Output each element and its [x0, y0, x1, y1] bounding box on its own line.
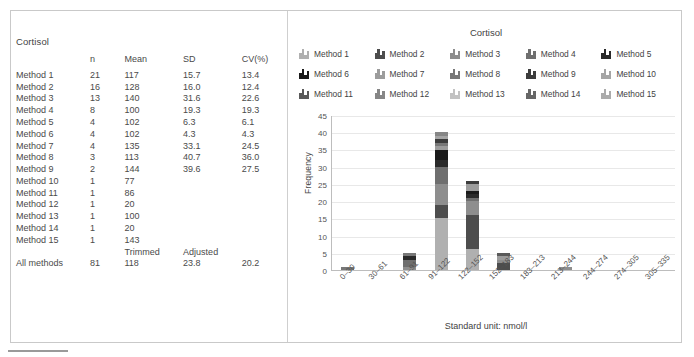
y-tick-label: 30 [305, 163, 327, 172]
value-cv: 24.5 [242, 140, 280, 152]
bar-segment [435, 150, 448, 160]
legend-label: Method 15 [616, 89, 656, 99]
value-n: 3 [90, 151, 124, 163]
table-row: Method 541026.36.1 [16, 116, 280, 128]
legend-item-method-6[interactable]: Method 6 [299, 64, 375, 84]
bar-slot [363, 116, 394, 270]
x-tick-slot: 0–30 [331, 273, 362, 323]
value-cv: 22.6 [242, 93, 280, 105]
value-sd: 16.0 [183, 81, 242, 93]
value-sd [183, 234, 242, 246]
value-sd [183, 199, 242, 211]
legend-item-method-13[interactable]: Method 13 [450, 84, 526, 104]
value-mean: 100 [125, 104, 184, 116]
legend-swatch-icon [299, 49, 309, 59]
y-axis-ticks: 051015202530354045 [305, 116, 327, 271]
value-n: 2 [90, 163, 124, 175]
legend-item-method-4[interactable]: Method 4 [526, 44, 602, 64]
table-subheader-row: TrimmedAdjusted [16, 246, 280, 258]
panel-divider [287, 11, 288, 342]
table-row: Method 9214439.627.5 [16, 163, 280, 175]
table-header-row: n Mean SD CV(%) [16, 54, 280, 69]
legend-item-method-14[interactable]: Method 14 [526, 84, 602, 104]
table-row: Method 131100 [16, 210, 280, 222]
value-n: 1 [90, 199, 124, 211]
value-mean: 135 [125, 140, 184, 152]
subheader-trimmed: Trimmed [125, 246, 184, 258]
x-tick-slot: 152–183 [487, 273, 518, 323]
total-sd: 23.8 [183, 258, 242, 270]
value-cv: 6.1 [242, 116, 280, 128]
subheader-adjusted: Adjusted [183, 246, 242, 258]
value-n: 16 [90, 81, 124, 93]
value-mean: 128 [125, 81, 184, 93]
legend-swatch-icon [450, 69, 460, 79]
legend-item-method-7[interactable]: Method 7 [375, 64, 451, 84]
legend-item-method-5[interactable]: Method 5 [601, 44, 677, 64]
bar-slot [550, 116, 581, 270]
legend-item-method-8[interactable]: Method 8 [450, 64, 526, 84]
plot-canvas [331, 116, 675, 271]
value-mean: 113 [125, 151, 184, 163]
legend-item-method-2[interactable]: Method 2 [375, 44, 451, 64]
figure-page: Cortisol n Mean SD CV(%) Method 12111715… [0, 0, 694, 357]
value-mean: 86 [125, 187, 184, 199]
y-tick-label: 10 [305, 232, 327, 241]
table-row: Method 31314031.622.6 [16, 93, 280, 105]
value-mean: 20 [125, 222, 184, 234]
chart-title: Cortisol [293, 27, 679, 38]
legend-item-method-12[interactable]: Method 12 [375, 84, 451, 104]
legend-item-method-9[interactable]: Method 9 [526, 64, 602, 84]
header-label [16, 54, 90, 69]
chart-panel: Cortisol Method 1Method 2Method 3Method … [293, 14, 679, 336]
legend-label: Method 8 [465, 69, 500, 79]
bar-series [332, 116, 675, 270]
bar-segment [435, 167, 448, 184]
value-n: 1 [90, 222, 124, 234]
x-axis-ticks: 0–3030–6161–9191–122122–152152–183183–21… [331, 273, 675, 323]
legend-item-method-10[interactable]: Method 10 [601, 64, 677, 84]
y-tick-label: 40 [305, 129, 327, 138]
table-row: Method 4810019.319.3 [16, 104, 280, 116]
legend-label: Method 12 [390, 89, 430, 99]
method-name: Method 4 [16, 104, 90, 116]
bar-segment [435, 184, 448, 205]
value-n: 8 [90, 104, 124, 116]
table-row: Method 11186 [16, 187, 280, 199]
value-cv [242, 222, 280, 234]
x-tick-slot: 183–213 [519, 273, 550, 323]
chart-legend: Method 1Method 2Method 3Method 4Method 5… [299, 44, 677, 104]
bar-segment [466, 215, 479, 249]
method-name: Method 10 [16, 175, 90, 187]
legend-item-method-3[interactable]: Method 3 [450, 44, 526, 64]
value-sd: 4.3 [183, 128, 242, 140]
header-n: n [90, 54, 124, 69]
bar-slot [613, 116, 644, 270]
x-tick-slot: 244–274 [581, 273, 612, 323]
legend-swatch-icon [450, 49, 460, 59]
header-cv: CV(%) [242, 54, 280, 69]
value-cv: 4.3 [242, 128, 280, 140]
legend-label: Method 3 [465, 49, 500, 59]
value-sd [183, 175, 242, 187]
method-name: Method 6 [16, 128, 90, 140]
value-mean: 77 [125, 175, 184, 187]
legend-swatch-icon [375, 49, 385, 59]
table-row: Method 641024.34.3 [16, 128, 280, 140]
value-mean: 20 [125, 199, 184, 211]
stacked-bar[interactable] [435, 132, 448, 270]
legend-item-method-1[interactable]: Method 1 [299, 44, 375, 64]
method-name: Method 11 [16, 187, 90, 199]
legend-item-method-15[interactable]: Method 15 [601, 84, 677, 104]
statistics-panel: Cortisol n Mean SD CV(%) Method 12111715… [16, 36, 282, 269]
value-mean: 140 [125, 93, 184, 105]
y-tick-label: 0 [305, 267, 327, 276]
value-n: 1 [90, 187, 124, 199]
subheader-cv [242, 246, 280, 258]
value-mean: 144 [125, 163, 184, 175]
legend-item-method-11[interactable]: Method 11 [299, 84, 375, 104]
x-tick-slot: 213–244 [550, 273, 581, 323]
method-name: Method 7 [16, 140, 90, 152]
value-cv: 27.5 [242, 163, 280, 175]
value-sd: 39.6 [183, 163, 242, 175]
